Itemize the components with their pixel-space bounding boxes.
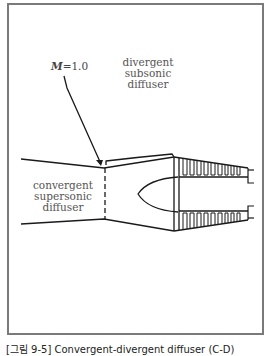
mach-leader xyxy=(64,76,101,164)
divergent-label: divergent subsonic diffuser xyxy=(118,57,178,90)
mach-label: M=1.0 xyxy=(51,60,88,72)
mach-symbol: M xyxy=(51,60,63,72)
convergent-label: convergent supersonic diffuser xyxy=(28,180,98,213)
exit-flange xyxy=(248,168,254,220)
spinner-cone xyxy=(138,177,178,212)
mach-value: =1.0 xyxy=(63,60,89,72)
upper-wall xyxy=(21,157,174,168)
convergent-label-line3: diffuser xyxy=(28,202,98,213)
upper-blade-row xyxy=(183,159,240,175)
figure-caption: [그림 9-5] Convergent-divergent diffuser (… xyxy=(6,341,234,356)
divergent-label-line3: diffuser xyxy=(118,79,178,90)
lower-wall xyxy=(21,219,174,231)
lower-blade-row xyxy=(183,213,240,229)
divergent-bracket xyxy=(106,154,174,165)
